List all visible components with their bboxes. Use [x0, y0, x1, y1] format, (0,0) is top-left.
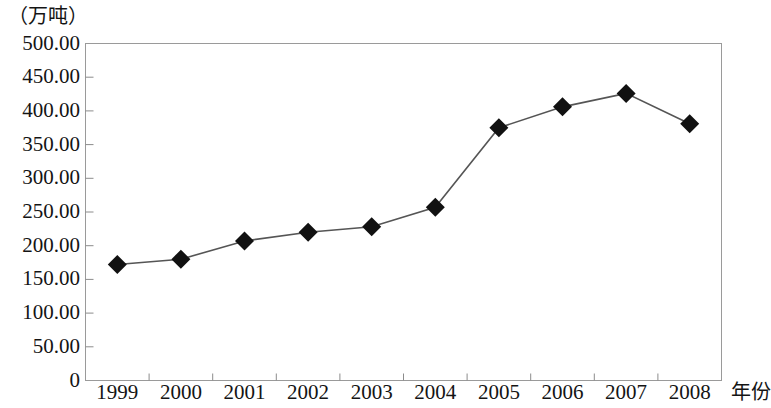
x-tick-label: 2006	[542, 382, 584, 403]
x-tick-label: 2001	[224, 382, 266, 403]
x-axis-name: 年份	[731, 382, 771, 403]
x-tick-label: 2007	[605, 382, 647, 403]
x-tick-label: 2003	[351, 382, 393, 403]
x-tick-label: 1999	[96, 382, 138, 403]
x-tick-label: 2008	[669, 382, 711, 403]
x-tick-label: 2004	[414, 382, 456, 403]
x-tick-label: 2000	[160, 382, 202, 403]
x-tick-label: 2005	[478, 382, 520, 403]
x-tick-label: 2002	[287, 382, 329, 403]
